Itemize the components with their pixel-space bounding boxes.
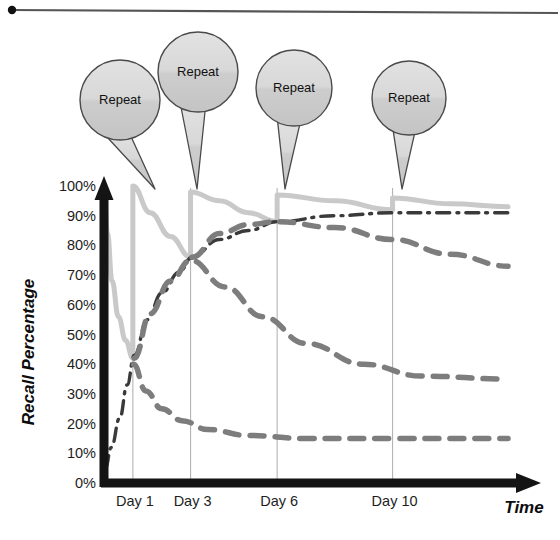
repeat-callout-1[interactable]: Repeat [80,60,160,189]
series-line-2 [192,222,508,267]
callout-label: Repeat [99,92,141,107]
top-rule-dot [8,6,16,14]
y-tick-0: 0% [75,475,96,491]
callout-label: Repeat [273,80,315,95]
y-axis-arrowhead [95,176,114,200]
top-rule-line [10,10,558,13]
x-axis-title: Time [504,498,543,517]
y-tick-50: 50% [67,327,96,343]
y-tick-60: 60% [67,297,96,313]
x-axis-arrowhead [516,473,541,493]
series-line-1 [105,213,508,468]
y-tick-20: 20% [67,416,96,432]
callout-label: Repeat [388,90,430,105]
x-tick-labels: Day 1Day 3Day 6Day 10 [116,493,418,509]
y-tick-80: 80% [67,237,96,253]
y-tick-30: 30% [67,386,96,402]
callout-tail [180,102,206,189]
y-tick-10: 10% [67,445,96,461]
repeat-callout-2[interactable]: Repeat [158,32,238,189]
x-tick-day-3: Day 3 [174,493,212,509]
repeat-callout-4[interactable]: Repeat [372,61,446,189]
x-tick-day-1: Day 1 [116,493,154,509]
y-tick-labels: 0%10%20%30%40%50%60%70%80%90%100% [59,178,96,491]
x-tick-day-6: Day 6 [260,493,298,509]
y-axis-title: Recall Percentage [19,279,38,425]
y-tick-100: 100% [59,178,96,194]
series-layer [104,186,508,468]
y-tick-90: 90% [67,208,96,224]
y-tick-70: 70% [67,267,96,283]
series-line-4 [133,364,508,438]
repeat-callout-3[interactable]: Repeat [256,50,332,189]
top-rule [8,6,558,14]
spaced-repetition-chart: 0%10%20%30%40%50%60%70%80%90%100% Day 1D… [0,0,560,540]
callout-tail [277,116,301,189]
x-tick-day-10: Day 10 [372,493,418,509]
repeat-callouts: RepeatRepeatRepeatRepeat [80,32,446,189]
y-tick-40: 40% [67,356,96,372]
figure-canvas: 0%10%20%30%40%50%60%70%80%90%100% Day 1D… [0,0,560,540]
callout-label: Repeat [177,64,219,79]
